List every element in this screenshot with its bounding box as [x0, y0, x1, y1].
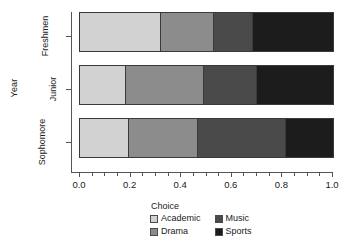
y-tick-mark	[66, 36, 71, 37]
x-tick-mark-minor	[307, 173, 308, 176]
bar-segment-music[interactable]	[214, 13, 253, 51]
y-tick-label-text: Sophomore	[38, 119, 48, 166]
bar-segment-drama[interactable]	[126, 66, 204, 104]
x-tick-label: 0.4	[165, 179, 195, 190]
legend-item-academic[interactable]: Academic	[150, 213, 201, 224]
y-tick-label-sophomore: Sophomore	[18, 118, 66, 166]
legend-swatch-drama	[150, 228, 158, 236]
plot-area	[79, 12, 332, 172]
x-tick-mark	[231, 173, 232, 177]
legend-title: Choice	[150, 201, 252, 211]
x-tick-mark	[130, 173, 131, 177]
x-tick-mark-minor	[269, 173, 270, 176]
bar-segment-sports[interactable]	[253, 13, 333, 51]
y-tick-label-freshmen: Freshmen	[18, 12, 66, 60]
legend-label-sports: Sports	[226, 226, 252, 237]
x-tick-mark-minor	[243, 173, 244, 176]
bar-segment-sports[interactable]	[257, 66, 333, 104]
y-axis-title-text: Year	[8, 78, 18, 97]
bar-segment-music[interactable]	[204, 66, 257, 104]
legend-label-music: Music	[226, 213, 250, 224]
bar-segment-music[interactable]	[198, 119, 287, 157]
bar-row-junior	[79, 65, 334, 105]
x-tick-label: 0.0	[64, 179, 94, 190]
x-tick-mark-minor	[142, 173, 143, 176]
y-tick-mark	[66, 89, 71, 90]
legend-column-right: Music Sports	[215, 213, 252, 237]
legend-swatch-academic	[150, 215, 158, 223]
legend-label-drama: Drama	[161, 226, 188, 237]
y-axis-line	[71, 12, 72, 173]
x-tick-label: 0.8	[266, 179, 296, 190]
legend-item-drama[interactable]: Drama	[150, 226, 201, 237]
x-tick-mark	[281, 173, 282, 177]
y-tick-mark	[66, 142, 71, 143]
x-tick-mark	[332, 173, 333, 177]
x-tick-mark-minor	[218, 173, 219, 176]
bar-segment-drama[interactable]	[129, 119, 197, 157]
legend-swatch-music	[215, 215, 223, 223]
x-tick-mark-minor	[117, 173, 118, 176]
bar-row-freshmen	[79, 12, 334, 52]
x-tick-mark	[79, 173, 80, 177]
x-tick-mark	[180, 173, 181, 177]
x-tick-mark-minor	[206, 173, 207, 176]
x-tick-mark-minor	[319, 173, 320, 176]
bar-segment-drama[interactable]	[161, 13, 214, 51]
stacked-bar-chart: Year Freshmen Junior Sophomore 0.00.20.4…	[0, 0, 354, 251]
bar-segment-academic[interactable]	[80, 13, 161, 51]
x-tick-mark-minor	[193, 173, 194, 176]
y-tick-label-text: Junior	[49, 77, 59, 102]
legend-label-academic: Academic	[161, 213, 201, 224]
x-tick-label: 1.0	[317, 179, 347, 190]
legend-swatch-sports	[215, 228, 223, 236]
x-tick-label: 0.2	[115, 179, 145, 190]
x-tick-mark-minor	[92, 173, 93, 176]
x-tick-mark-minor	[294, 173, 295, 176]
bar-segment-academic[interactable]	[80, 119, 129, 157]
y-tick-label-text: Freshmen	[41, 16, 51, 57]
x-tick-mark-minor	[104, 173, 105, 176]
x-tick-mark-minor	[168, 173, 169, 176]
bar-segment-sports[interactable]	[286, 119, 333, 157]
legend-item-sports[interactable]: Sports	[215, 226, 252, 237]
x-tick-mark-minor	[256, 173, 257, 176]
y-tick-label-junior: Junior	[18, 65, 66, 113]
x-tick-mark-minor	[155, 173, 156, 176]
legend-column-left: Academic Drama	[150, 213, 201, 237]
bar-segment-academic[interactable]	[80, 66, 126, 104]
legend-item-music[interactable]: Music	[215, 213, 252, 224]
bar-row-sophomore	[79, 118, 334, 158]
legend: Choice Academic Drama Music	[150, 201, 252, 237]
x-tick-label: 0.6	[216, 179, 246, 190]
